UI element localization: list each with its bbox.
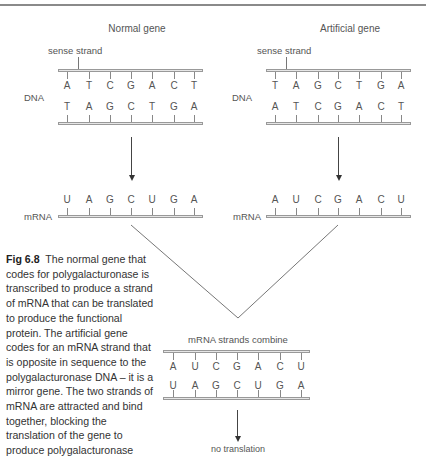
nucleotide-base: G (375, 80, 387, 91)
base-tick (401, 72, 402, 79)
nucleotide-base: C (210, 361, 222, 372)
dna-label: DNA (24, 92, 44, 103)
nucleotide-base: T (290, 101, 302, 112)
arrow-down-icon (336, 175, 342, 181)
base-tick (152, 208, 153, 215)
base-tick (275, 115, 276, 122)
base-tick (359, 115, 360, 122)
base-tick (67, 115, 68, 122)
nucleotide-base: A (61, 80, 73, 91)
base-tick (89, 72, 90, 79)
base-tick (131, 208, 132, 215)
base-tick (280, 353, 281, 360)
base-tick (359, 208, 360, 215)
base-tick (258, 353, 259, 360)
base-tick (152, 115, 153, 122)
dna-label: DNA (232, 92, 252, 103)
base-tick (194, 72, 195, 79)
nucleotide-base: G (168, 194, 180, 205)
base-tick (381, 208, 382, 215)
base-tick (174, 115, 175, 122)
nucleotide-base: A (353, 101, 365, 112)
base-tick (152, 72, 153, 79)
base-tick (237, 353, 238, 360)
mrna-backbone (58, 215, 203, 218)
nucleotide-base: A (83, 101, 95, 112)
normal-gene-title: Normal gene (108, 23, 165, 34)
nucleotide-base: T (83, 80, 95, 91)
nucleotide-base: G (332, 101, 344, 112)
nucleotide-base: G (231, 361, 243, 372)
dna-bottom-backbone (266, 122, 411, 125)
base-tick (296, 72, 297, 79)
base-tick (275, 208, 276, 215)
nucleotide-base: A (269, 194, 281, 205)
nucleotide-base: T (61, 101, 73, 112)
base-tick (174, 72, 175, 79)
base-tick (318, 72, 319, 79)
caption-text: The normal gene that codes for polygalac… (6, 253, 153, 456)
base-tick (110, 115, 111, 122)
mrna-label: mRNA (233, 211, 261, 222)
mrna-backbone (266, 215, 411, 218)
transcription-arrow (131, 137, 132, 175)
base-tick (89, 115, 90, 122)
nucleotide-base: A (83, 194, 95, 205)
nucleotide-base: C (274, 361, 286, 372)
nucleotide-base: U (189, 361, 201, 372)
nucleotide-base: G (125, 80, 137, 91)
base-tick (338, 72, 339, 79)
nucleotide-base: C (231, 380, 243, 391)
nucleotide-base: U (395, 194, 407, 205)
arrow-down-icon (129, 175, 135, 181)
nucleotide-base: T (269, 80, 281, 91)
base-tick (110, 208, 111, 215)
nucleotide-base: C (168, 80, 180, 91)
sense-strand-label: sense strand (48, 45, 102, 56)
base-tick (318, 208, 319, 215)
base-tick (67, 72, 68, 79)
base-tick (131, 115, 132, 122)
base-tick (280, 390, 281, 397)
base-tick (216, 390, 217, 397)
nucleotide-base: U (146, 194, 158, 205)
nucleotide-base: C (375, 194, 387, 205)
nucleotide-base: U (252, 380, 264, 391)
nucleotide-base: G (104, 101, 116, 112)
nucleotide-base: A (189, 380, 201, 391)
sense-strand-pointer (78, 57, 79, 69)
nucleotide-base: T (395, 101, 407, 112)
transcription-arrow (338, 137, 339, 175)
nucleotide-base: A (146, 80, 158, 91)
base-tick (301, 353, 302, 360)
base-tick (401, 208, 402, 215)
base-tick (194, 115, 195, 122)
nucleotide-base: C (332, 80, 344, 91)
nucleotide-base: G (274, 380, 286, 391)
base-tick (338, 115, 339, 122)
nucleotide-base: C (312, 194, 324, 205)
nucleotide-base: A (395, 80, 407, 91)
nucleotide-base: A (188, 101, 200, 112)
base-tick (301, 390, 302, 397)
nucleotide-base: A (167, 361, 179, 372)
base-tick (338, 208, 339, 215)
nucleotide-base: T (353, 80, 365, 91)
nucleotide-base: A (188, 194, 200, 205)
base-tick (296, 208, 297, 215)
arrow-down-icon (235, 436, 241, 442)
base-tick (401, 115, 402, 122)
nucleotide-base: C (104, 80, 116, 91)
blocked-arrow (237, 410, 238, 437)
base-tick (194, 208, 195, 215)
nucleotide-base: U (61, 194, 73, 205)
base-tick (195, 390, 196, 397)
combined-bottom-backbone (163, 397, 310, 400)
base-tick (110, 72, 111, 79)
dna-bottom-backbone (58, 122, 203, 125)
nucleotide-base: G (210, 380, 222, 391)
figure-caption: Fig 6.8 The normal gene that codes for p… (6, 252, 156, 456)
nucleotide-base: G (168, 101, 180, 112)
nucleotide-base: C (125, 194, 137, 205)
mrna-label: mRNA (24, 211, 52, 222)
